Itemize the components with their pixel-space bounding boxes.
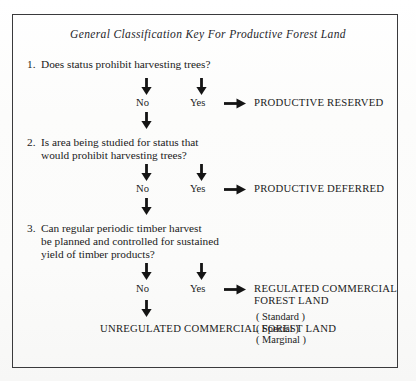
outcome-productive-deferred: PRODUCTIVE DEFERRED bbox=[254, 182, 384, 194]
outcome-regulated-commercial: REGULATED COMMERCIAL FOREST LAND bbox=[254, 282, 397, 307]
arrow-right-icon bbox=[224, 98, 246, 109]
outcome-unregulated-commercial-line-3: FOREST LAND bbox=[262, 322, 337, 334]
outcome-unregulated-commercial-line-1: UNREGULATED bbox=[100, 322, 181, 334]
outcome-regulated-commercial-line-2: FOREST LAND bbox=[254, 294, 397, 306]
branch-label-yes-3: Yes bbox=[190, 283, 205, 294]
question-3-line-2: be planned and controlled for sustained bbox=[41, 235, 219, 248]
question-2-number: 2. bbox=[27, 136, 41, 149]
question-2: 2. Is area being studied for status that… bbox=[27, 136, 198, 162]
arrow-down-icon bbox=[196, 78, 207, 95]
arrow-down-icon bbox=[141, 164, 152, 181]
arrow-down-icon bbox=[141, 78, 152, 95]
question-3-line-1: Can regular periodic timber harvest bbox=[41, 222, 219, 235]
arrow-right-icon bbox=[224, 284, 246, 295]
outcome-productive-reserved: PRODUCTIVE RESERVED bbox=[254, 96, 383, 108]
outcome-productive-reserved-line-1: PRODUCTIVE RESERVED bbox=[254, 96, 383, 108]
question-2-line-1: Is area being studied for status that bbox=[41, 136, 198, 149]
regulated-subtype-standard: ( Standard ) bbox=[256, 311, 306, 323]
question-1: 1. Does status prohibit harvesting trees… bbox=[27, 58, 210, 71]
classification-key-sheet: General Classification Key For Productiv… bbox=[0, 0, 416, 381]
question-3: 3. Can regular periodic timber harvest b… bbox=[27, 222, 219, 262]
question-3-number: 3. bbox=[27, 222, 41, 235]
outcome-regulated-commercial-line-1: REGULATED COMMERCIAL bbox=[254, 282, 397, 294]
arrow-down-icon bbox=[141, 300, 152, 317]
question-2-line-2: would prohibit harvesting trees? bbox=[41, 149, 198, 162]
outcome-productive-deferred-line-1: PRODUCTIVE DEFERRED bbox=[254, 182, 384, 194]
branch-label-no-3: No bbox=[136, 283, 149, 294]
branch-label-yes-2: Yes bbox=[190, 183, 205, 194]
arrow-down-icon bbox=[196, 164, 207, 181]
outcome-unregulated-commercial-line-2: COMMERCIAL bbox=[184, 322, 259, 334]
branch-label-yes-1: Yes bbox=[190, 97, 205, 108]
arrow-down-icon bbox=[141, 198, 152, 215]
arrow-down-icon bbox=[196, 263, 207, 280]
page-title: General Classification Key For Productiv… bbox=[0, 28, 416, 40]
question-2-text: Is area being studied for status that wo… bbox=[41, 136, 198, 162]
question-1-text: Does status prohibit harvesting trees? bbox=[41, 58, 210, 71]
question-1-line-1: Does status prohibit harvesting trees? bbox=[41, 58, 210, 71]
branch-label-no-2: No bbox=[136, 183, 149, 194]
arrow-right-icon bbox=[224, 184, 246, 195]
arrow-down-icon bbox=[141, 112, 152, 129]
branch-label-no-1: No bbox=[136, 97, 149, 108]
question-1-number: 1. bbox=[27, 58, 41, 71]
outcome-unregulated-commercial: UNREGULATED COMMERCIAL FOREST LAND bbox=[100, 322, 336, 334]
question-3-line-3: yield of timber products? bbox=[41, 248, 219, 261]
question-3-text: Can regular periodic timber harvest be p… bbox=[41, 222, 219, 262]
arrow-down-icon bbox=[141, 263, 152, 280]
regulated-subtype-marginal: ( Marginal ) bbox=[256, 334, 306, 346]
